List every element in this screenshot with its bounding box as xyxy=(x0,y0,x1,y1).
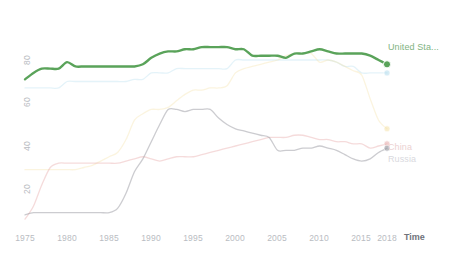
chart-plot-area xyxy=(0,0,456,254)
y-tick-60: 60 xyxy=(22,97,32,107)
legend-label-united-states[interactable]: United Sta... xyxy=(388,42,439,52)
series-end-marker[interactable] xyxy=(384,70,390,76)
series-end-markers xyxy=(383,61,390,151)
x-tick-1990: 1990 xyxy=(141,233,161,243)
series-line[interactable] xyxy=(25,47,387,79)
x-tick-2015: 2015 xyxy=(351,233,371,243)
x-tick-2000: 2000 xyxy=(225,233,245,243)
x-tick-2005: 2005 xyxy=(267,233,287,243)
series-end-marker[interactable] xyxy=(384,126,390,132)
x-axis-title: Time xyxy=(404,232,425,242)
series-line[interactable] xyxy=(25,59,387,88)
x-tick-1975: 1975 xyxy=(15,233,35,243)
legend-label-china[interactable]: China xyxy=(388,142,412,152)
y-tick-80: 80 xyxy=(22,55,32,65)
legend-label-russia[interactable]: Russia xyxy=(388,154,416,164)
series-line[interactable] xyxy=(25,53,387,170)
series-line[interactable] xyxy=(25,108,387,214)
x-tick-2010: 2010 xyxy=(309,233,329,243)
y-tick-40: 40 xyxy=(22,141,32,151)
y-tick-20: 20 xyxy=(22,184,32,194)
x-tick-1995: 1995 xyxy=(183,233,203,243)
series-end-marker[interactable] xyxy=(383,61,390,68)
x-tick-1985: 1985 xyxy=(99,233,119,243)
series-lines xyxy=(25,47,387,219)
series-line[interactable] xyxy=(25,135,387,219)
x-tick-1980: 1980 xyxy=(57,233,77,243)
line-chart: 1975 1980 1985 1990 1995 2000 2005 2010 … xyxy=(0,0,456,254)
x-tick-2018: 2018 xyxy=(377,233,397,243)
